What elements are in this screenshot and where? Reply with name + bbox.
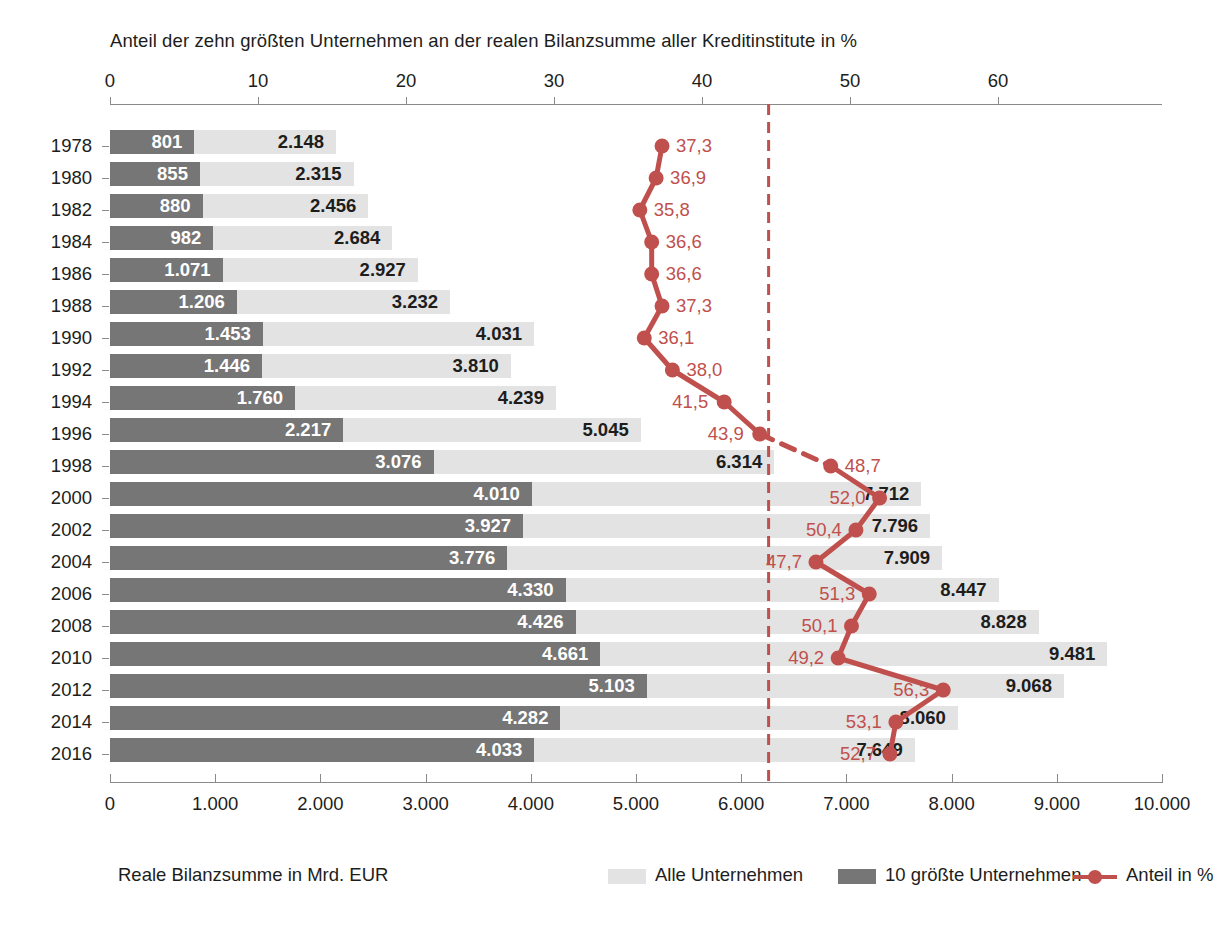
category-axis-tick (102, 530, 109, 531)
percentage-value-label: 52,0 (808, 486, 866, 510)
value-label-10-groesste-unternehmen: 5.103 (110, 674, 635, 698)
percentage-value-label: 41,5 (650, 390, 708, 414)
value-label-10-groesste-unternehmen: 855 (110, 162, 188, 186)
top-axis-tick (258, 97, 259, 105)
value-label-10-groesste-unternehmen: 3.776 (110, 546, 495, 570)
category-axis-tick (102, 466, 109, 467)
top-axis-tick-label: 20 (396, 70, 417, 92)
percentage-value-label: 48,7 (845, 454, 881, 478)
legend-label-10-groesste-unternehmen: 10 größte Unternehmen (885, 864, 1081, 885)
percentage-value-label: 35,8 (654, 198, 690, 222)
category-axis-tick (102, 338, 109, 339)
bottom-axis-tick (846, 774, 847, 783)
category-label-2016: 2016 (20, 738, 92, 770)
bottom-axis-tick (110, 774, 111, 783)
category-label-2012: 2012 (20, 674, 92, 706)
bottom-axis-tick-label: 7.000 (823, 793, 869, 815)
bottom-axis-tick (1057, 774, 1058, 783)
value-label-10-groesste-unternehmen: 1.206 (110, 290, 225, 314)
category-label-1992: 1992 (20, 354, 92, 386)
category-axis-tick (102, 658, 109, 659)
bottom-axis-tick-label: 0 (105, 793, 115, 815)
percentage-value-label: 52,7 (818, 742, 876, 766)
value-label-10-groesste-unternehmen: 1.071 (110, 258, 211, 282)
value-label-10-groesste-unternehmen: 4.033 (110, 738, 522, 762)
percentage-value-label: 37,3 (676, 294, 712, 318)
category-axis-tick (102, 754, 109, 755)
percentage-value-label: 49,2 (766, 646, 824, 670)
bottom-axis-tick (320, 774, 321, 783)
bottom-axis-tick-label: 9.000 (1034, 793, 1080, 815)
bottom-axis-tick (426, 774, 427, 783)
bottom-axis-tick-label: 8.000 (928, 793, 974, 815)
top-axis-tick (110, 97, 111, 105)
percentage-value-label: 36,9 (670, 166, 706, 190)
category-label-1988: 1988 (20, 290, 92, 322)
category-label-2008: 2008 (20, 610, 92, 642)
top-axis-line (110, 104, 1162, 105)
bottom-axis-tick-label: 1.000 (192, 793, 238, 815)
legend-label-anteil-in-prozent: Anteil in % (1126, 864, 1213, 885)
top-axis-tick (850, 97, 851, 105)
category-axis-tick (102, 274, 109, 275)
legend-item-10-groesste-unternehmen[interactable]: 10 größte Unternehmen (838, 862, 1081, 888)
category-label-2002: 2002 (20, 514, 92, 546)
top-axis-tick-label: 50 (840, 70, 861, 92)
percentage-value-label: 47,7 (744, 550, 802, 574)
category-label-1978: 1978 (20, 130, 92, 162)
bottom-axis-tick (952, 774, 953, 783)
bottom-axis-tick-label: 3.000 (402, 793, 448, 815)
legend-item-alle-unternehmen[interactable]: Alle Unternehmen (608, 862, 803, 888)
percentage-value-label: 37,3 (676, 134, 712, 158)
top-axis-tick (554, 97, 555, 105)
bottom-axis-tick-label: 2.000 (297, 793, 343, 815)
category-label-1986: 1986 (20, 258, 92, 290)
value-label-10-groesste-unternehmen: 982 (110, 226, 201, 250)
category-label-1984: 1984 (20, 226, 92, 258)
top-axis-tick-label: 10 (248, 70, 269, 92)
category-label-1998: 1998 (20, 450, 92, 482)
percentage-value-label: 43,9 (686, 422, 744, 446)
category-axis-tick (102, 402, 109, 403)
category-label-1996: 1996 (20, 418, 92, 450)
value-label-10-groesste-unternehmen: 3.076 (110, 450, 422, 474)
category-label-2010: 2010 (20, 642, 92, 674)
value-label-10-groesste-unternehmen: 4.330 (110, 578, 554, 602)
legend-item-anteil-in-prozent[interactable]: Anteil in % (1073, 862, 1213, 888)
category-axis-tick (102, 498, 109, 499)
value-label-10-groesste-unternehmen: 2.217 (110, 418, 331, 442)
top-axis-tick-label: 0 (105, 70, 115, 92)
bottom-axis-tick-label: 4.000 (508, 793, 554, 815)
category-axis-tick (102, 146, 109, 147)
plot-area: 010203040506001.0002.0003.0004.0005.0006… (0, 0, 1225, 925)
percentage-value-label: 36,6 (666, 230, 702, 254)
bottom-axis-tick (636, 774, 637, 783)
value-label-10-groesste-unternehmen: 880 (110, 194, 191, 218)
percentage-value-label: 53,1 (824, 710, 882, 734)
value-label-10-groesste-unternehmen: 1.446 (110, 354, 250, 378)
legend-label-alle-unternehmen: Alle Unternehmen (655, 864, 803, 885)
bottom-axis-tick-label: 5.000 (613, 793, 659, 815)
dark-gray-swatch-icon (838, 869, 876, 884)
category-label-2000: 2000 (20, 482, 92, 514)
category-axis-tick (102, 626, 109, 627)
light-gray-swatch-icon (608, 869, 646, 884)
top-axis-tick (406, 97, 407, 105)
bottom-axis-tick (741, 774, 742, 783)
bottom-axis-tick-label: 10.000 (1134, 793, 1191, 815)
category-label-2006: 2006 (20, 578, 92, 610)
bottom-axis-tick-label: 6.000 (718, 793, 764, 815)
bottom-axis-tick (1162, 774, 1163, 783)
top-axis-tick-label: 60 (988, 70, 1009, 92)
category-axis-tick (102, 690, 109, 691)
red-line-marker-icon (1073, 869, 1117, 884)
category-axis-tick (102, 434, 109, 435)
top-axis-tick-label: 30 (544, 70, 565, 92)
percentage-value-label: 38,0 (686, 358, 722, 382)
top-axis-tick (702, 97, 703, 105)
category-label-2014: 2014 (20, 706, 92, 738)
category-axis-tick (102, 722, 109, 723)
value-label-10-groesste-unternehmen: 4.010 (110, 482, 520, 506)
category-axis-tick (102, 306, 109, 307)
category-label-2004: 2004 (20, 546, 92, 578)
